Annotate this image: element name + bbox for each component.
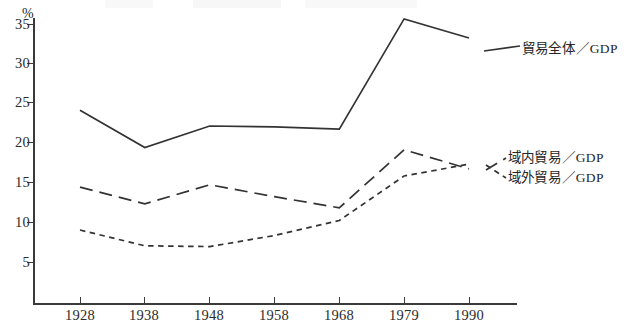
legend-extra-slash: ／ — [561, 170, 576, 185]
legend-label-total: 貿易全体／GDP — [522, 41, 618, 56]
line-chart: % 35 30 25 20 15 10 5 1928 1938 1948 195… — [0, 0, 626, 332]
legend-extra-latin: GDP — [576, 170, 604, 185]
legend-extra-cjk: 域外貿易 — [508, 169, 561, 185]
legend-total-latin: GDP — [590, 41, 618, 56]
legend-intra-slash: ／ — [561, 150, 576, 165]
legend-leader-extra — [486, 165, 506, 178]
series-line-extra — [80, 164, 469, 247]
legend-label-intra: 域内貿易／GDP — [508, 150, 604, 165]
series-line-intra — [80, 150, 469, 208]
legend-leader-total — [484, 46, 520, 51]
legend-leader-intra — [486, 158, 506, 170]
legend-label-extra: 域外貿易／GDP — [508, 170, 604, 185]
legend-intra-cjk: 域内貿易 — [508, 149, 561, 165]
legend-total-slash: ／ — [575, 41, 590, 56]
series-line-total — [80, 19, 469, 148]
legend-intra-latin: GDP — [576, 150, 604, 165]
legend-total-cjk: 貿易全体 — [522, 40, 575, 56]
